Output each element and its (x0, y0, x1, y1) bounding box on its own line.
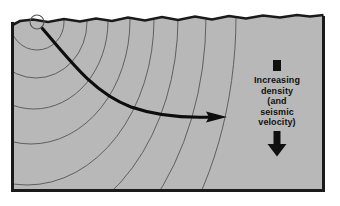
seismic-refraction-figure: Increasing density (and seismic velocity… (0, 0, 340, 206)
ground-body (13, 15, 324, 191)
diagram-canvas (0, 0, 340, 206)
